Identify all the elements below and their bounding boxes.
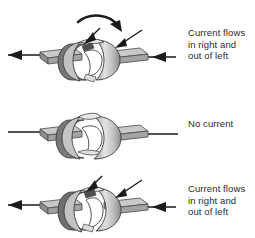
commutator-illustration-top: [0, 0, 180, 92]
commutator-illustration-bottom: [0, 162, 180, 238]
commutator-diagram: Current flows in right and out of left: [0, 0, 255, 238]
commutator-illustration-middle: [0, 92, 180, 162]
diagram-panel-middle: No current: [0, 92, 255, 162]
diagram-panel-bottom: Current flows in right and out of left: [0, 162, 255, 238]
diagram-panel-top: Current flows in right and out of left: [0, 0, 255, 92]
split-ring-commutator-top: [58, 39, 120, 82]
panel-caption-middle: No current: [188, 118, 255, 130]
split-ring-commutator-middle: [56, 113, 121, 159]
panel-caption-bottom: Current flows in right and out of left: [188, 183, 255, 218]
clockwise-rotation-arrow-top: [78, 16, 122, 32]
panel-caption-top: Current flows in right and out of left: [188, 27, 255, 62]
split-ring-commutator-bottom: [58, 187, 121, 232]
